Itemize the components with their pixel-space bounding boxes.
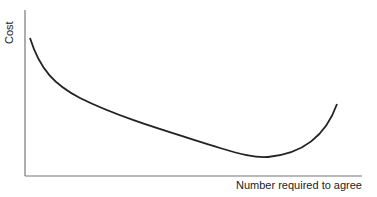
y-axis-label-wrap: Cost xyxy=(3,10,17,50)
cost-curve xyxy=(30,38,337,157)
x-axis-label: Number required to agree xyxy=(236,179,362,191)
y-axis-label: Cost xyxy=(3,21,15,44)
chart-canvas xyxy=(0,0,377,197)
